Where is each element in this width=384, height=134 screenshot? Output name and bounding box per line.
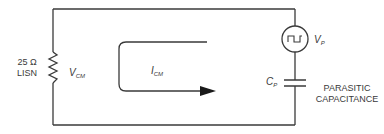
current-flow-arrow — [119, 42, 216, 96]
common-mode-circuit-diagram: 25 Ω LISN VCM ICM VP CP PARASITIC CAPACI… — [0, 0, 384, 134]
vp-label-sub: P — [321, 40, 325, 46]
icm-label-sub: CM — [154, 71, 163, 77]
lisn-label: 25 Ω LISN — [14, 57, 40, 79]
vcm-label-sub: CM — [76, 73, 85, 79]
icm-label: ICM — [151, 65, 163, 80]
parasitic-label-line2: CAPACITANCE — [312, 94, 382, 105]
vp-label: VP — [314, 34, 325, 49]
vcm-label-main: V — [69, 67, 76, 78]
arrowhead-icon — [200, 86, 216, 96]
circuit-wires — [53, 9, 295, 125]
ac-source-symbol — [282, 26, 308, 52]
circuit-schematic — [0, 0, 384, 134]
vp-label-main: V — [314, 34, 321, 45]
lisn-impedance-value: 25 Ω — [14, 57, 40, 68]
cp-label: CP — [266, 76, 277, 91]
cp-label-sub: P — [273, 82, 277, 88]
capacitor-symbol — [284, 80, 306, 86]
vcm-label: VCM — [69, 67, 85, 82]
lisn-name: LISN — [14, 68, 40, 79]
parasitic-capacitance-label: PARASITIC CAPACITANCE — [312, 83, 382, 105]
resistor-symbol — [49, 52, 57, 83]
parasitic-label-line1: PARASITIC — [312, 83, 382, 94]
